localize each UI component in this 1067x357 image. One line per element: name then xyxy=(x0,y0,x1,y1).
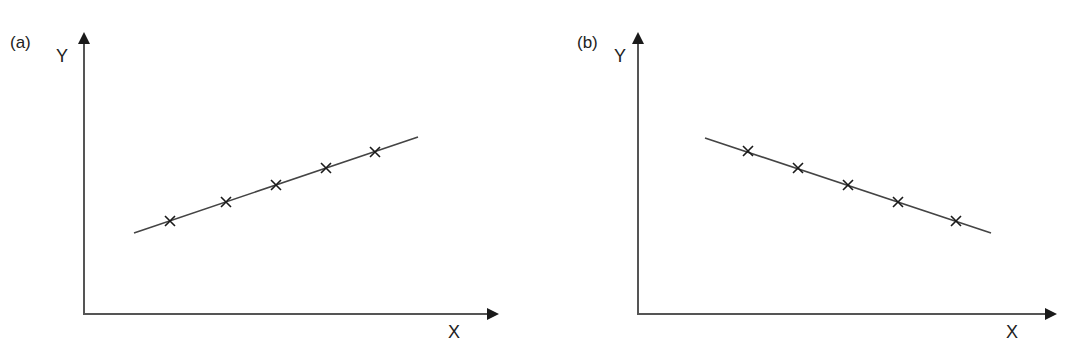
x-axis-label: X xyxy=(448,322,460,342)
panel-b: (b) Y X xyxy=(577,33,1055,342)
data-series-negative xyxy=(705,138,991,233)
data-point-marker xyxy=(221,197,231,207)
panel-b-label: (b) xyxy=(577,33,598,52)
diagram-canvas: (a) Y X (b) Y X xyxy=(0,0,1067,357)
x-axis-label: X xyxy=(1006,322,1018,342)
data-point-marker xyxy=(321,163,331,173)
data-point-marker xyxy=(165,216,175,226)
data-point-marker xyxy=(893,197,903,207)
y-axis-label: Y xyxy=(614,46,626,66)
panel-a: (a) Y X xyxy=(10,33,497,342)
y-axis-label: Y xyxy=(56,46,68,66)
data-point-marker xyxy=(271,180,281,190)
panel-a-label: (a) xyxy=(10,33,31,52)
data-series-positive xyxy=(134,137,418,233)
